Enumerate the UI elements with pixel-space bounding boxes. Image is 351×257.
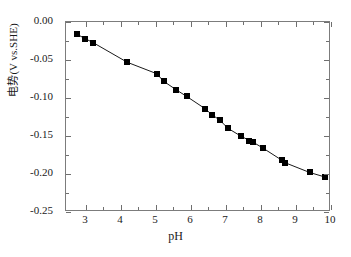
data-point-marker xyxy=(124,59,130,65)
y-minor-tick-mark xyxy=(66,79,69,80)
y-minor-tick-mark xyxy=(66,155,69,156)
x-tick-mark xyxy=(296,205,297,210)
x-tick-mark xyxy=(331,22,332,27)
y-tick-label: -0.25 xyxy=(0,205,58,216)
x-tick-mark xyxy=(331,205,332,210)
x-tick-mark xyxy=(191,22,192,27)
x-minor-tick-mark xyxy=(173,22,174,25)
x-tick-mark xyxy=(156,205,157,210)
y-minor-tick-mark xyxy=(326,193,329,194)
y-tick-mark xyxy=(66,98,71,99)
x-tick-label: 5 xyxy=(140,213,170,225)
y-minor-tick-mark xyxy=(66,193,69,194)
chart-figure: 345678910 0.00-0.05-0.10-0.15-0.20-0.25 … xyxy=(0,0,351,257)
x-minor-tick-mark xyxy=(138,22,139,25)
y-minor-tick-mark xyxy=(326,79,329,80)
y-minor-tick-mark xyxy=(326,155,329,156)
data-point-marker xyxy=(202,106,208,112)
y-tick-mark xyxy=(324,22,329,23)
x-tick-mark xyxy=(261,205,262,210)
x-tick-mark xyxy=(86,22,87,27)
x-axis-title: pH xyxy=(0,229,351,244)
y-tick-mark xyxy=(324,60,329,61)
x-tick-label: 8 xyxy=(245,213,275,225)
x-tick-mark xyxy=(226,22,227,27)
data-point-marker xyxy=(282,160,288,166)
data-point-marker xyxy=(90,40,96,46)
y-tick-mark xyxy=(66,22,71,23)
x-tick-mark xyxy=(86,205,87,210)
y-tick-label: -0.20 xyxy=(0,167,58,178)
y-minor-tick-mark xyxy=(326,117,329,118)
series-line xyxy=(66,22,331,212)
data-point-marker xyxy=(173,87,179,93)
y-tick-mark xyxy=(66,174,71,175)
x-tick-mark xyxy=(261,22,262,27)
data-point-marker xyxy=(161,78,167,84)
y-minor-tick-mark xyxy=(66,41,69,42)
x-tick-label: 10 xyxy=(315,213,345,225)
y-tick-mark xyxy=(66,60,71,61)
data-point-marker xyxy=(74,31,80,37)
y-tick-label: -0.15 xyxy=(0,129,58,140)
x-tick-label: 9 xyxy=(280,213,310,225)
data-point-marker xyxy=(154,71,160,77)
x-minor-tick-mark xyxy=(313,22,314,25)
data-point-marker xyxy=(225,125,231,131)
data-point-marker xyxy=(209,112,215,118)
y-tick-mark xyxy=(324,98,329,99)
data-point-marker xyxy=(307,169,313,175)
y-minor-tick-mark xyxy=(326,41,329,42)
data-layer xyxy=(66,22,329,210)
x-minor-tick-mark xyxy=(243,22,244,25)
x-minor-tick-mark xyxy=(138,207,139,210)
data-point-marker xyxy=(250,139,256,145)
y-minor-tick-mark xyxy=(66,117,69,118)
x-minor-tick-mark xyxy=(208,207,209,210)
x-tick-label: 4 xyxy=(105,213,135,225)
y-tick-mark xyxy=(324,174,329,175)
data-point-marker xyxy=(260,145,266,151)
y-tick-mark xyxy=(66,136,71,137)
x-tick-label: 6 xyxy=(175,213,205,225)
plot-area xyxy=(65,21,330,211)
x-tick-mark xyxy=(191,205,192,210)
x-minor-tick-mark xyxy=(103,207,104,210)
x-tick-mark xyxy=(156,22,157,27)
x-tick-mark xyxy=(121,22,122,27)
x-tick-mark xyxy=(226,205,227,210)
data-point-marker xyxy=(184,93,190,99)
data-point-marker xyxy=(217,117,223,123)
data-point-marker xyxy=(82,36,88,42)
y-axis-title: 电势(V vs.SHE) xyxy=(5,0,21,125)
x-tick-mark xyxy=(296,22,297,27)
x-minor-tick-mark xyxy=(278,207,279,210)
x-tick-mark xyxy=(121,205,122,210)
y-axis-title-wrap: 电势(V vs.SHE) xyxy=(5,0,21,125)
x-minor-tick-mark xyxy=(208,22,209,25)
x-tick-label: 3 xyxy=(70,213,100,225)
y-tick-mark xyxy=(324,136,329,137)
x-minor-tick-mark xyxy=(278,22,279,25)
x-minor-tick-mark xyxy=(103,22,104,25)
data-point-marker xyxy=(238,133,244,139)
x-minor-tick-mark xyxy=(313,207,314,210)
x-minor-tick-mark xyxy=(243,207,244,210)
x-minor-tick-mark xyxy=(173,207,174,210)
x-tick-label: 7 xyxy=(210,213,240,225)
